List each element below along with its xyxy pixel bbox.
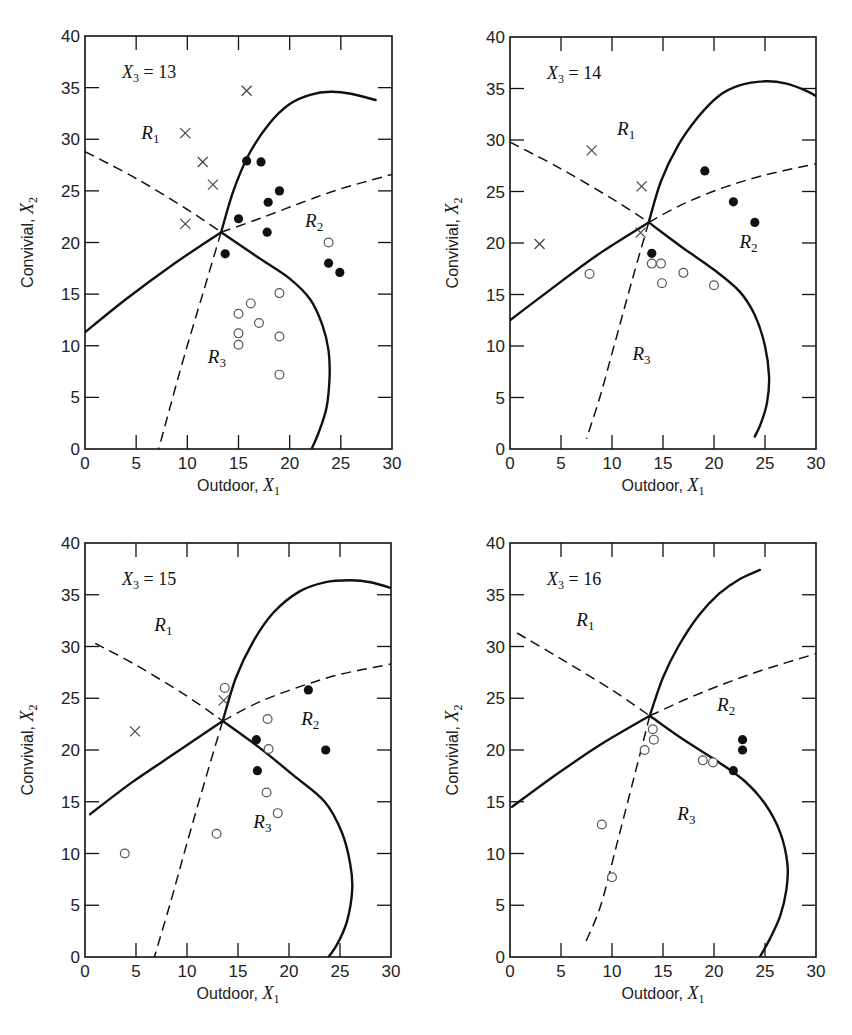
filled-point-marker — [264, 198, 273, 207]
region-labels: R1R2R3 — [153, 614, 319, 835]
filled-point-marker — [750, 218, 759, 227]
open-point-marker — [234, 340, 243, 349]
x-tick-labels: 051015202530 — [505, 962, 825, 981]
open-point-marker — [234, 309, 243, 318]
series-cross — [180, 86, 251, 229]
filled-point-marker — [221, 249, 230, 258]
cross-point-marker — [198, 157, 208, 167]
boundary-curves — [90, 580, 396, 962]
cross-point-marker — [637, 181, 647, 191]
y-tick-label: 10 — [61, 845, 80, 864]
cross-point-marker — [636, 228, 646, 238]
y-tick-label: 25 — [486, 183, 505, 202]
solid-boundary — [85, 232, 221, 332]
x-tick-label: 25 — [756, 454, 775, 473]
dashed-boundary — [159, 232, 221, 449]
region-label-r3: R3 — [676, 803, 695, 827]
filled-point-marker — [738, 745, 747, 754]
open-point-marker — [658, 279, 667, 288]
x-tick-label: 5 — [131, 454, 140, 473]
y-tick-label: 20 — [486, 741, 505, 760]
x-tick-labels: 051015202530 — [80, 962, 400, 981]
region-labels: R1R2R3 — [616, 118, 758, 368]
filled-point-marker — [256, 157, 265, 166]
filled-point-marker — [304, 685, 313, 694]
y-tick-label: 5 — [496, 389, 505, 408]
series-cross — [130, 695, 229, 736]
open-point-marker — [657, 259, 666, 268]
y-tick-label: 15 — [61, 793, 80, 812]
cross-point-marker — [535, 239, 545, 249]
y-tick-label: 15 — [486, 286, 505, 305]
plot-frame — [85, 36, 392, 449]
x-axis-title: Outdoor, X1 — [622, 983, 705, 1006]
y-axis-title: Convivial, X2 — [442, 705, 465, 796]
open-point-marker — [275, 370, 284, 379]
y-tick-label: 5 — [71, 388, 80, 407]
y-tick-labels: 0510152025303540 — [61, 534, 80, 967]
y-tick-label: 0 — [71, 440, 80, 459]
panel-annotation: X3 = 13 — [121, 62, 176, 85]
filled-point-marker — [335, 268, 344, 277]
filled-point-marker — [253, 766, 262, 775]
y-tick-label: 25 — [486, 689, 505, 708]
y-tick-label: 10 — [486, 845, 505, 864]
panel-annotation: X3 = 14 — [546, 63, 601, 86]
x-tick-labels: 051015202530 — [80, 454, 401, 473]
x-tick-label: 0 — [505, 454, 514, 473]
cross-point-marker — [180, 219, 190, 229]
open-point-marker — [709, 758, 718, 767]
open-point-marker — [212, 829, 221, 838]
y-tick-label: 20 — [486, 234, 505, 253]
tick-marks — [85, 36, 392, 449]
region-label-r1: R1 — [153, 614, 172, 638]
region-label-r3: R3 — [252, 811, 271, 835]
panel-x3-13: 0510152025300510152025303540Outdoor, X1C… — [17, 27, 401, 498]
region-label-r2: R2 — [716, 694, 735, 718]
x-axis-title: Outdoor, X1 — [197, 983, 280, 1006]
y-tick-label: 5 — [496, 896, 505, 915]
region-label-r1: R1 — [616, 118, 635, 142]
y-tick-label: 0 — [496, 948, 505, 967]
boundary-curves — [85, 92, 392, 452]
x-tick-label: 30 — [383, 454, 402, 473]
x-tick-label: 10 — [603, 454, 622, 473]
region-label-r2: R2 — [300, 708, 319, 732]
open-point-marker — [648, 725, 657, 734]
x-tick-label: 30 — [807, 454, 826, 473]
filled-point-marker — [263, 228, 272, 237]
solid-boundary — [90, 721, 223, 814]
open-point-marker — [710, 281, 719, 290]
dashed-boundary — [154, 721, 222, 957]
tick-marks — [85, 543, 391, 957]
boundary-curves — [512, 570, 816, 965]
open-point-marker — [220, 684, 229, 693]
filled-point-marker — [700, 166, 709, 175]
series-open — [585, 259, 718, 289]
y-tick-label: 10 — [61, 337, 80, 356]
open-point-marker — [275, 289, 284, 298]
y-tick-label: 35 — [61, 586, 80, 605]
series-open — [597, 725, 717, 882]
y-tick-label: 35 — [61, 79, 80, 98]
open-point-marker — [324, 238, 333, 247]
open-point-marker — [585, 270, 594, 279]
open-point-marker — [597, 820, 606, 829]
y-tick-label: 25 — [61, 182, 80, 201]
boundary-curves — [510, 81, 819, 438]
x-tick-labels: 051015202530 — [505, 454, 825, 473]
x-tick-label: 25 — [331, 454, 350, 473]
y-tick-label: 40 — [486, 534, 505, 553]
y-tick-label: 20 — [61, 741, 80, 760]
x-tick-label: 5 — [556, 454, 565, 473]
x-tick-label: 30 — [807, 962, 826, 981]
filled-point-marker — [275, 186, 284, 195]
region-label-r1: R1 — [140, 122, 159, 146]
x-tick-label: 5 — [556, 962, 565, 981]
panel-x3-15: 0510152025300510152025303540Outdoor, X1C… — [17, 534, 400, 1006]
solid-boundary — [510, 222, 649, 320]
dashed-boundary — [95, 643, 223, 721]
open-point-marker — [264, 745, 273, 754]
plot-frame — [85, 543, 391, 957]
y-axis-title: Convivial, X2 — [17, 197, 40, 288]
